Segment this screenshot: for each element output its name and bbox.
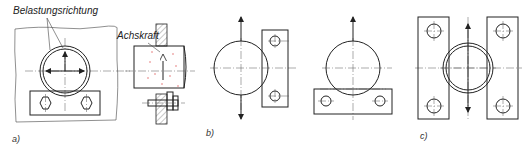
axial-force-label: Achskraft: [117, 30, 159, 41]
panel-b-right-view: [314, 17, 392, 120]
panel-b-label: b): [206, 128, 214, 138]
load-direction-label: Belastungsrichtung: [13, 5, 98, 16]
panel-c-label: c): [420, 131, 428, 141]
panel-a-front-view: [15, 18, 130, 122]
panel-b-left-view: [210, 17, 296, 119]
panel-c-view: [415, 17, 522, 120]
technical-drawing: [0, 0, 531, 150]
panel-a-label: a): [12, 134, 20, 144]
